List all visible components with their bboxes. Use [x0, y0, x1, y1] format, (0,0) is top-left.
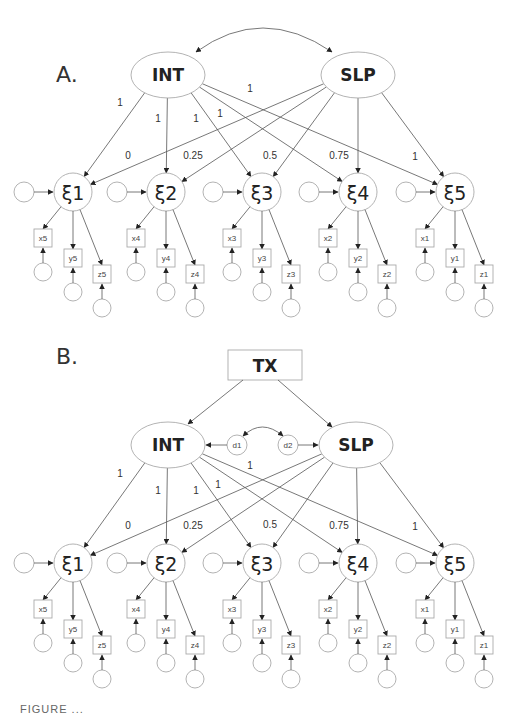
- slp-loading-path-2: [182, 87, 327, 182]
- indicator-loading-path: [462, 210, 484, 265]
- int-loading-path-2: [166, 98, 167, 173]
- factor-residual-circle: [107, 553, 127, 573]
- int-loading-path-5: [202, 454, 437, 556]
- slp-loading-label-2: 0.25: [183, 150, 203, 161]
- indicator-loading-path: [365, 581, 387, 636]
- indicator-label-y3: y3: [258, 625, 267, 634]
- indicator-error-circle: [446, 283, 464, 301]
- factor-label-1: ξ1: [62, 182, 85, 204]
- factor-residual-circle: [14, 553, 34, 573]
- d1-d2-covariance-arc: [243, 427, 283, 436]
- factor-residual-circle: [14, 182, 34, 202]
- indicator-error-circle: [223, 263, 241, 281]
- indicator-loading-path: [328, 578, 346, 600]
- indicator-loading-path: [173, 210, 195, 265]
- factor-residual-circle: [299, 553, 319, 573]
- int-loading-path-3: [191, 463, 251, 548]
- slp-loading-label-4: 0.75: [329, 520, 349, 531]
- indicator-loading-path: [462, 581, 484, 636]
- d1-label: d1: [233, 441, 242, 450]
- slp-loading-path-3: [273, 463, 333, 548]
- indicator-error-circle: [186, 299, 204, 317]
- indicator-error-circle: [127, 634, 145, 652]
- indicator-loading-path: [232, 578, 250, 600]
- factor-label-3: ξ3: [251, 553, 274, 575]
- factor-residual-circle: [396, 553, 416, 573]
- int-loading-label-3: 1: [193, 113, 199, 124]
- slp-loading-path-1: [90, 84, 323, 185]
- indicator-label-x1: x1: [421, 234, 430, 243]
- indicator-loading-path: [269, 581, 291, 636]
- indicator-label-z5: z5: [98, 270, 107, 279]
- indicator-error-circle: [349, 283, 367, 301]
- indicator-error-circle: [378, 299, 396, 317]
- slp-loading-label-3: 0.5: [263, 150, 277, 161]
- slp-loading-label-3: 0.5: [263, 519, 277, 530]
- slp-loading-label-1: 0: [125, 520, 131, 531]
- factor-residual-circle: [396, 182, 416, 202]
- indicator-loading-path: [136, 207, 154, 229]
- slp-loading-path-4: [357, 468, 358, 544]
- indicator-error-circle: [475, 670, 493, 688]
- factor-label-4: ξ4: [347, 553, 370, 575]
- indicator-label-z3: z3: [287, 641, 296, 650]
- slp-latent-label: SLP: [340, 65, 376, 85]
- indicator-loading-path: [136, 578, 154, 600]
- slp-loading-label-4: 0.75: [329, 150, 349, 161]
- indicator-error-circle: [186, 670, 204, 688]
- figure-caption: FIGURE ...: [20, 703, 84, 715]
- indicator-label-y1: y1: [451, 254, 460, 263]
- indicator-loading-path: [173, 581, 195, 636]
- indicator-label-x4: x4: [132, 605, 141, 614]
- indicator-label-x3: x3: [228, 234, 237, 243]
- int-slp-covariance-arc: [196, 28, 332, 52]
- indicator-error-circle: [253, 283, 271, 301]
- indicator-loading-path: [80, 210, 102, 265]
- int-loading-label-5: 1: [247, 460, 253, 471]
- indicator-label-z2: z2: [383, 641, 392, 650]
- indicator-label-y3: y3: [258, 254, 267, 263]
- indicator-loading-path: [80, 581, 102, 636]
- factor-residual-circle: [299, 182, 319, 202]
- indicator-label-z2: z2: [383, 270, 392, 279]
- tx-predictor-label: TX: [253, 356, 278, 376]
- indicator-loading-path: [43, 207, 61, 229]
- tx-to-int-path: [188, 380, 243, 424]
- indicator-error-circle: [34, 263, 52, 281]
- indicator-label-y2: y2: [354, 625, 363, 634]
- slp-latent-label: SLP: [338, 435, 374, 455]
- indicator-label-x4: x4: [132, 234, 141, 243]
- indicator-error-circle: [349, 654, 367, 672]
- slp-loading-label-5: 1: [412, 151, 418, 162]
- indicator-loading-path: [425, 578, 443, 600]
- indicator-error-circle: [253, 654, 271, 672]
- indicator-loading-path: [232, 207, 250, 229]
- indicator-error-circle: [64, 283, 82, 301]
- factor-label-4: ξ4: [347, 182, 370, 204]
- int-loading-path-3: [191, 93, 251, 177]
- indicator-label-y4: y4: [162, 625, 171, 634]
- int-loading-label-3: 1: [193, 485, 199, 496]
- indicator-error-circle: [319, 263, 337, 281]
- int-loading-path-5: [202, 84, 437, 185]
- factor-label-1: ξ1: [62, 553, 85, 575]
- factor-label-2: ξ2: [155, 553, 178, 575]
- indicator-label-y4: y4: [162, 254, 171, 263]
- indicator-error-circle: [93, 670, 111, 688]
- indicator-label-z1: z1: [480, 641, 489, 650]
- indicator-label-z3: z3: [287, 270, 296, 279]
- indicator-loading-path: [425, 207, 443, 229]
- indicator-loading-path: [328, 207, 346, 229]
- slp-loading-label-5: 1: [412, 521, 418, 532]
- d2-label: d2: [284, 441, 293, 450]
- indicator-label-x1: x1: [421, 605, 430, 614]
- indicator-label-x5: x5: [39, 605, 48, 614]
- indicator-error-circle: [64, 654, 82, 672]
- indicator-error-circle: [319, 634, 337, 652]
- int-loading-label-4: 1: [215, 479, 221, 490]
- indicator-label-z1: z1: [480, 270, 489, 279]
- indicator-label-z5: z5: [98, 641, 107, 650]
- indicator-error-circle: [378, 670, 396, 688]
